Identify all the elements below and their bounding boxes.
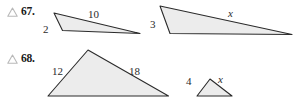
exercise-67-large-triangle (160, 6, 292, 35)
exercise-68-large-triangle-label-left: 12 (52, 66, 63, 77)
exercise-67-small-triangle-label-top: 10 (88, 9, 99, 20)
triangle-outline-icon (7, 7, 18, 17)
triangles-layer (0, 0, 303, 105)
exercise-68-large-triangle-label-right: 18 (129, 66, 140, 77)
exercise-68-small-triangle-label-left: 4 (186, 76, 192, 87)
exercise-number-68: 68. (21, 52, 35, 64)
exercise-number-67: 67. (21, 5, 35, 17)
exercise-67-small-triangle-label-left: 2 (43, 24, 49, 35)
exercise-68-small-triangle (197, 79, 232, 96)
triangle-outline-icon (7, 54, 18, 64)
exercise-67-large-triangle-label-top: x (228, 8, 233, 19)
exercise-68-small-triangle-label-right: x (218, 74, 223, 85)
exercise-figure-page: 67. 2 10 3 x 68. 12 18 4 x (0, 0, 303, 105)
exercise-68-large-triangle (48, 50, 169, 96)
exercise-67-large-triangle-label-left: 3 (150, 19, 156, 30)
